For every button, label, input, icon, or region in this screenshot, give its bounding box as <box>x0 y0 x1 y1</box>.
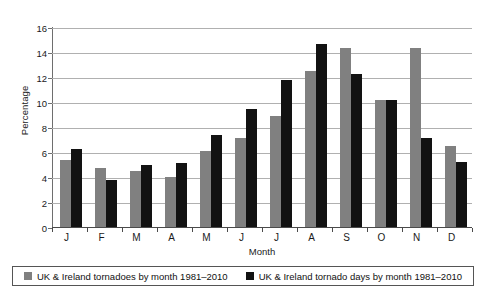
x-axis-tick-mark <box>472 228 473 232</box>
legend-swatch <box>246 272 254 280</box>
bar <box>176 163 187 227</box>
y-axis-tick-label: 8 <box>42 123 47 134</box>
y-axis-tick-mark <box>48 78 52 79</box>
x-axis-tick-label: J <box>52 232 82 243</box>
x-axis-tick-mark <box>87 228 88 232</box>
x-axis-tick-label: S <box>332 232 362 243</box>
x-axis-tick-label: J <box>227 232 257 243</box>
y-axis-tick-mark <box>48 53 52 54</box>
bar <box>305 71 316 227</box>
bar <box>200 151 211 227</box>
bar <box>340 48 351 227</box>
y-axis-tick-label: 2 <box>42 198 47 209</box>
bar <box>246 109 257 227</box>
x-axis-tick-label: D <box>437 232 467 243</box>
y-axis-tick-label: 4 <box>42 173 47 184</box>
legend-swatch <box>24 272 32 280</box>
chart-legend: UK & Ireland tornadoes by month 1981–201… <box>12 266 474 286</box>
bar <box>130 171 141 227</box>
bar <box>316 44 327 227</box>
x-axis-tick-label: O <box>367 232 397 243</box>
y-axis-tick-mark <box>48 203 52 204</box>
bar <box>281 80 292 228</box>
bar <box>375 100 386 227</box>
x-axis-tick-mark <box>122 228 123 232</box>
x-axis-tick-label: F <box>87 232 117 243</box>
legend-label: UK & Ireland tornadoes by month 1981–201… <box>37 271 228 282</box>
gridline <box>52 28 472 29</box>
y-axis-tick-label: 16 <box>36 23 47 34</box>
x-axis-tick-mark <box>227 228 228 232</box>
x-axis-tick-mark <box>262 228 263 232</box>
x-axis-tick-mark <box>402 228 403 232</box>
legend-label: UK & Ireland tornado days by month 1981–… <box>259 271 462 282</box>
x-axis-tick-mark <box>52 228 53 232</box>
y-axis-tick-mark <box>48 28 52 29</box>
x-axis-tick-mark <box>297 228 298 232</box>
x-axis-tick-mark <box>332 228 333 232</box>
bar <box>456 162 467 227</box>
y-axis-tick-label: 14 <box>36 48 47 59</box>
y-axis-tick-mark <box>48 128 52 129</box>
bar <box>235 138 246 227</box>
plot-area: 0246810121416 JFMAMJJASOND <box>52 28 472 228</box>
y-axis-title: Percentage <box>19 51 30 171</box>
y-axis-tick-mark <box>48 153 52 154</box>
y-axis-tick-label: 0 <box>42 223 47 234</box>
bar <box>351 74 362 227</box>
y-axis-tick-label: 6 <box>42 148 47 159</box>
bar <box>386 100 397 227</box>
x-axis-tick-mark <box>192 228 193 232</box>
y-axis-tick-mark <box>48 178 52 179</box>
legend-entry: UK & Ireland tornado days by month 1981–… <box>246 271 462 282</box>
x-axis-tick-label: A <box>157 232 187 243</box>
legend-entry: UK & Ireland tornadoes by month 1981–201… <box>24 271 228 282</box>
bar <box>211 135 222 227</box>
x-axis-tick-label: M <box>192 232 222 243</box>
y-axis-tick-mark <box>48 103 52 104</box>
bar <box>410 48 421 227</box>
y-axis-tick-label: 10 <box>36 98 47 109</box>
x-axis-tick-mark <box>367 228 368 232</box>
x-axis-tick-mark <box>437 228 438 232</box>
x-axis-title: Month <box>52 246 472 257</box>
bar <box>60 160 71 227</box>
bar <box>95 168 106 227</box>
x-axis-tick-label: A <box>297 232 327 243</box>
bar <box>270 116 281 227</box>
bar-chart: Percentage 0246810121416 JFMAMJJASOND Mo… <box>0 0 494 297</box>
bar <box>445 146 456 227</box>
bar <box>106 180 117 227</box>
y-axis-tick-label: 12 <box>36 73 47 84</box>
x-axis-tick-mark <box>157 228 158 232</box>
bar <box>141 165 152 228</box>
bar <box>71 149 82 227</box>
x-axis-tick-label: J <box>262 232 292 243</box>
x-axis-tick-label: M <box>122 232 152 243</box>
x-axis-tick-label: N <box>402 232 432 243</box>
bar <box>165 177 176 227</box>
bar <box>421 138 432 227</box>
